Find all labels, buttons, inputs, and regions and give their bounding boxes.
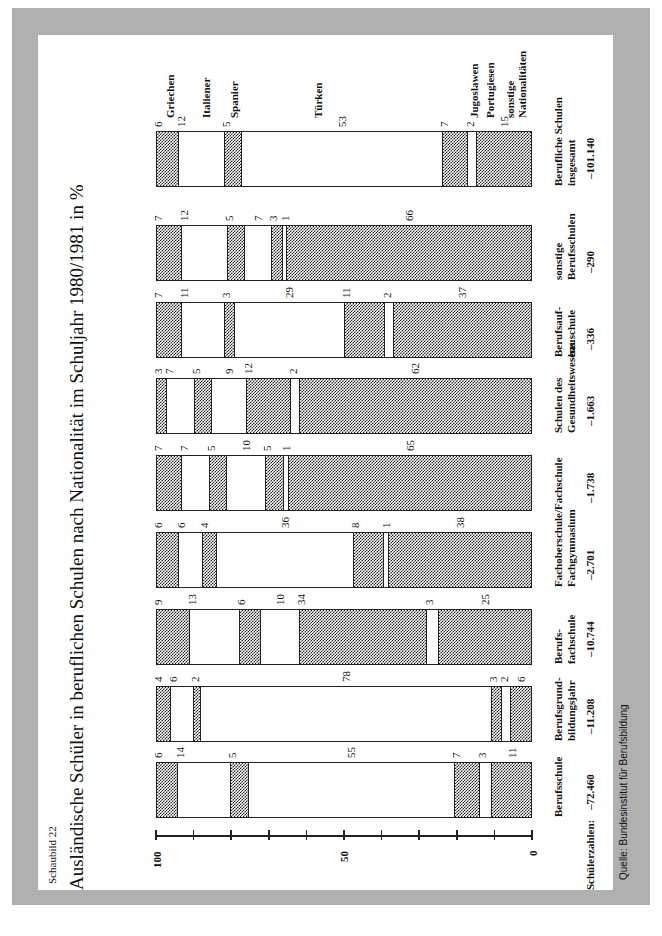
segment-value-label: 3 [423,600,435,606]
segment-value-label: 7 [252,216,264,222]
axis-tick-mark [456,830,458,840]
bar-segment [427,610,438,664]
segment-value-label: 14 [174,747,186,758]
segment-value-label: 6 [152,753,164,759]
axis-tick-0: 0 [527,851,539,857]
bar-segment [286,226,532,280]
axis-tick-mark [418,830,420,840]
segment-value-label: 7 [450,753,462,759]
figure-kicker: Schaubild 22 [46,826,58,884]
segment-value-label: 9 [152,600,164,606]
stacked-bar [156,762,532,818]
stacked-bar [156,686,532,742]
segment-value-label: 12 [242,363,254,374]
category-label: Berufsauf-bauschule [552,307,578,357]
student-count: –290 [584,251,596,273]
bar-segment [242,132,441,186]
segment-value-label: 53 [336,116,348,127]
segment-value-label: 7 [178,446,190,452]
bar-segment [156,763,178,817]
bar-segment [224,303,235,357]
legend-item: Portugiesen [484,62,496,118]
legend-item: Türken [312,83,324,118]
legend-item: Italiener [200,78,212,118]
bar-segment [178,763,230,817]
bar-segment [246,379,291,433]
segment-value-label: 11 [506,747,518,758]
segment-value-label: 13 [186,594,198,605]
segment-value-label: 2 [381,293,393,299]
segment-value-label: 6 [152,523,164,529]
segment-value-label: 6 [515,677,527,683]
bar-segment [156,687,171,741]
category-label: Berufsgrund-bildungsjahr [552,677,578,741]
bar-segment [227,226,246,280]
segment-value-label: 6 [167,677,179,683]
bar-segment [393,303,532,357]
bar-segment [438,610,532,664]
segment-value-label: 3 [476,753,488,759]
bar-segment [353,533,383,587]
student-count: –101.140 [584,138,596,179]
bar-segment [190,610,239,664]
segment-value-label: 6 [152,122,164,128]
source-note: Quelle: Bundesinstitut für Berufsbildung [618,704,629,880]
bar-segment [299,610,427,664]
segment-value-label: 29 [283,287,295,298]
bar-segment [156,610,190,664]
bar-segment [265,456,284,510]
segment-value-label: 3 [267,216,279,222]
segment-value-label: 25 [479,594,491,605]
segment-value-label: 36 [279,517,291,528]
segment-value-label: 2 [287,369,299,375]
segment-value-label: 5 [223,216,235,222]
segment-value-label: 5 [220,122,232,128]
bar-segment [388,533,532,587]
student-count: –10.744 [584,621,596,657]
bar-segment [194,379,213,433]
bar-segment [224,132,243,186]
segment-value-label: 6 [175,523,187,529]
bar-segment [476,132,532,186]
stacked-bar [156,455,532,511]
segment-value-label: 2 [189,677,201,683]
bar-segment [179,132,224,186]
axis-tick-mark [343,830,345,840]
student-count: –2.701 [584,550,596,580]
segment-value-label: 4 [152,677,164,683]
stacked-bar [156,378,532,434]
axis-tick-mark [531,830,533,840]
bar-segment [510,687,532,741]
bar-segment [182,226,227,280]
bar-segment [156,379,167,433]
bar-segment [491,763,532,817]
bar-segment [156,132,179,186]
stacked-bar [156,532,532,588]
axis-tick-50: 50 [338,851,350,862]
category-label: Fachschule [552,457,565,510]
segment-value-label: 7 [163,369,175,375]
student-count: –11.208 [584,699,596,734]
bar-segment [179,533,202,587]
bar-segment [344,303,385,357]
chart-title: Ausländische Schüler in beruflichen Schu… [66,185,88,890]
segment-value-label: 4 [198,523,210,529]
segment-value-label: 7 [152,293,164,299]
legend-item: sonstigeNationalitäten [504,51,528,118]
bar-segment [212,379,246,433]
bar-segment [261,610,299,664]
category-label: sonstigeBerufsschulen [552,213,578,280]
bar-segment [209,456,228,510]
segment-value-label: 5 [190,369,202,375]
bar-segment [491,687,502,741]
bar-segment [442,132,468,186]
segment-value-label: 11 [340,287,352,298]
bar-segment [235,303,344,357]
segment-value-label: 7 [438,122,450,128]
segment-value-label: 7 [152,446,164,452]
segment-value-label: 5 [261,446,273,452]
axis-tick-mark [381,830,383,840]
segment-value-label: 78 [340,671,352,682]
bar-segment [171,687,193,741]
axis-tick-mark [155,830,157,840]
